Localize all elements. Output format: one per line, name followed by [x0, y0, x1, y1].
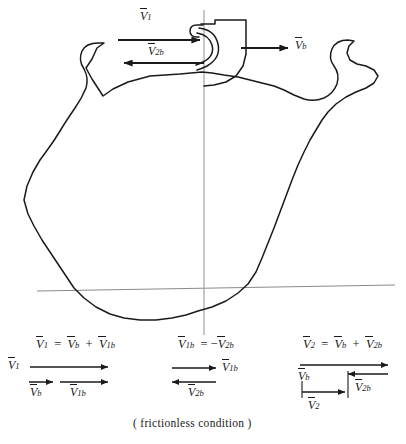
- eq3-vector-sketch: [300, 365, 388, 398]
- equation-1-expression: V1 = Vb + V1b: [36, 337, 115, 352]
- body-outline: [24, 20, 378, 320]
- vector-label-vb: Vb: [295, 38, 307, 53]
- equation-2-v1b-label: V1b: [222, 360, 238, 375]
- equation-3-vb-label: Vb: [298, 369, 310, 384]
- main-vectors: [118, 40, 288, 63]
- axis-horizontal: [37, 285, 395, 291]
- vector-label-v1: V1: [140, 9, 152, 24]
- figure-root: V1 V2b Vb V1 = Vb + V1b V1 Vb V1b V1b = …: [0, 0, 406, 444]
- eq1-vector-sketch: [29, 367, 108, 382]
- figure-svg: [0, 0, 406, 444]
- equation-2-v2b-label: V2b: [188, 385, 204, 400]
- equation-3-v2-label: V2: [308, 398, 320, 413]
- figure-caption: ( frictionless condition ): [133, 417, 252, 429]
- equation-1-component-v1b-label: V1b: [70, 385, 86, 400]
- equation-1-resultant-label: V1: [8, 358, 20, 373]
- equation-1-component-vb-label: Vb: [30, 385, 42, 400]
- eq2-vector-sketch: [172, 368, 216, 382]
- equation-3-expression: V2 = Vb + V2b: [303, 337, 382, 352]
- equation-2-expression: V1b = −V2b: [178, 337, 234, 352]
- vector-label-v2b: V2b: [148, 44, 164, 59]
- equation-3-v2b-label: V2b: [355, 380, 371, 395]
